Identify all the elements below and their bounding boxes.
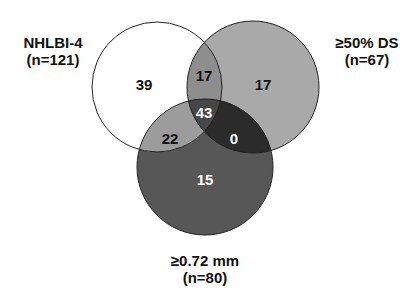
count-abc: 43 bbox=[196, 104, 213, 121]
set-b-name: ≥50% DS bbox=[322, 34, 412, 51]
label-set-b: ≥50% DS (n=67) bbox=[322, 34, 412, 68]
set-a-count: (n=121) bbox=[18, 51, 88, 68]
set-b-count: (n=67) bbox=[322, 51, 412, 68]
count-c-only: 15 bbox=[197, 171, 214, 188]
label-set-a: NHLBI-4 (n=121) bbox=[18, 34, 88, 68]
count-b-only: 17 bbox=[255, 76, 272, 93]
set-c-count: (n=80) bbox=[155, 269, 255, 286]
set-a-name: NHLBI-4 bbox=[18, 34, 88, 51]
count-ac-only: 22 bbox=[162, 130, 179, 147]
label-set-c: ≥0.72 mm (n=80) bbox=[155, 252, 255, 286]
count-ab-only: 17 bbox=[196, 67, 213, 84]
count-bc-only: 0 bbox=[230, 130, 238, 147]
set-c-name: ≥0.72 mm bbox=[155, 252, 255, 269]
count-a-only: 39 bbox=[136, 76, 153, 93]
